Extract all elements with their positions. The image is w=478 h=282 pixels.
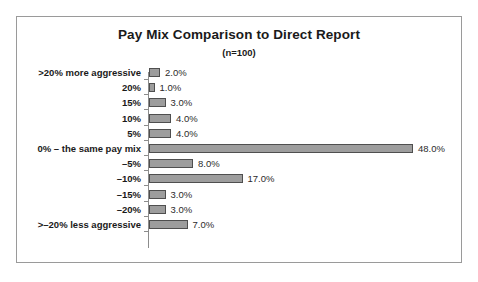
bar-row: –15%3.0% <box>17 187 461 202</box>
bar <box>149 114 171 123</box>
bar-row: –10%17.0% <box>17 171 461 186</box>
bar-value-label: 7.0% <box>193 219 215 230</box>
chart-frame: Pay Mix Comparison to Direct Report (n=1… <box>16 16 462 263</box>
bar-row: 10%4.0% <box>17 111 461 126</box>
bar-value-label: 1.0% <box>160 82 182 93</box>
bar <box>149 68 160 77</box>
category-label: 20% <box>17 82 141 93</box>
category-label: –20% <box>17 204 141 215</box>
bar <box>149 174 243 183</box>
plot-area: >20% more aggressive2.0%20%1.0%15%3.0%10… <box>17 59 461 262</box>
bar <box>149 83 155 92</box>
bar <box>149 129 171 138</box>
chart-title: Pay Mix Comparison to Direct Report <box>17 27 461 42</box>
bar-row: –20%3.0% <box>17 202 461 217</box>
bar-value-label: 48.0% <box>418 143 445 154</box>
category-label: >20% more aggressive <box>17 67 141 78</box>
bar-row: 15%3.0% <box>17 95 461 110</box>
bar-value-label: 3.0% <box>171 97 193 108</box>
category-label: 5% <box>17 128 141 139</box>
bar <box>149 98 166 107</box>
bar-row: 0% – the same pay mix48.0% <box>17 141 461 156</box>
bar <box>149 205 166 214</box>
bar-value-label: 3.0% <box>171 189 193 200</box>
chart-subtitle: (n=100) <box>17 47 461 58</box>
bar-value-label: 2.0% <box>165 67 187 78</box>
bar-value-label: 4.0% <box>176 128 198 139</box>
category-label: 0% – the same pay mix <box>17 143 141 154</box>
category-label: –15% <box>17 189 141 200</box>
bar <box>149 220 188 229</box>
bar <box>149 159 193 168</box>
bar-value-label: 17.0% <box>248 173 275 184</box>
bar-row: >–20% less aggressive7.0% <box>17 217 461 232</box>
category-label: 15% <box>17 97 141 108</box>
category-label: 10% <box>17 113 141 124</box>
bar <box>149 190 166 199</box>
bar-row: –5%8.0% <box>17 156 461 171</box>
category-label: –5% <box>17 158 141 169</box>
category-label: –10% <box>17 173 141 184</box>
bar-value-label: 3.0% <box>171 204 193 215</box>
bar-row: 20%1.0% <box>17 80 461 95</box>
bar-row: 5%4.0% <box>17 126 461 141</box>
bar-value-label: 8.0% <box>198 158 220 169</box>
category-label: >–20% less aggressive <box>17 219 141 230</box>
bar-value-label: 4.0% <box>176 113 198 124</box>
axis-tick-mark <box>144 231 148 232</box>
bar <box>149 144 413 153</box>
bar-row: >20% more aggressive2.0% <box>17 65 461 80</box>
